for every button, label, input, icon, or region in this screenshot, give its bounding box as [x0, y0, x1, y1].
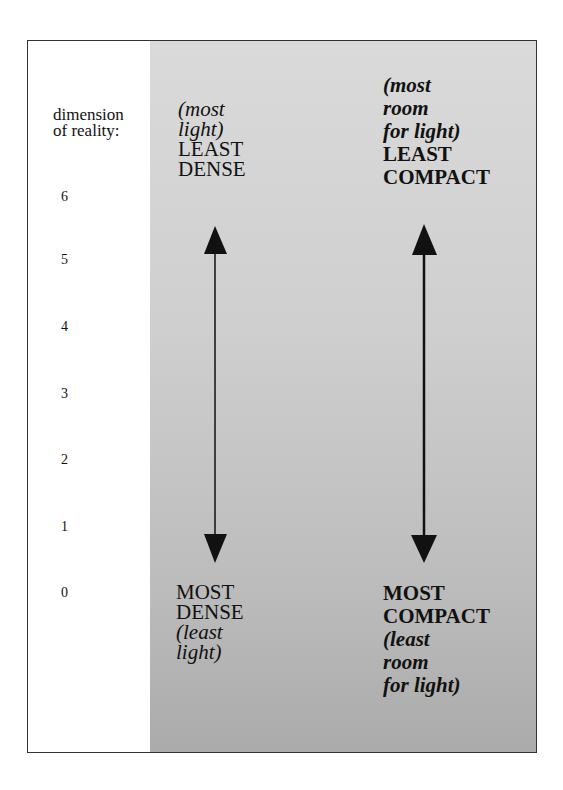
arrows-layer: [0, 0, 563, 790]
density-double-arrow-icon: [204, 226, 227, 563]
compactness-double-arrow-icon: [411, 224, 437, 563]
